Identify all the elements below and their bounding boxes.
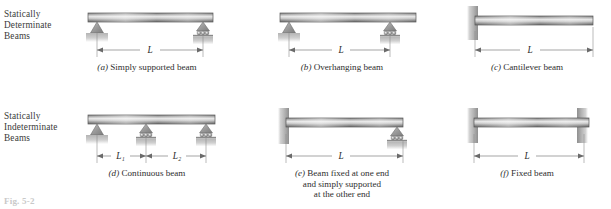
panel-b-overhanging-beam: L (b) Overhanging beam [262, 4, 422, 90]
row-label-indeterminate-line2: Indeterminate [4, 122, 58, 133]
dimension-d-L2: L₂ [146, 151, 206, 161]
caption-c-text: Cantilever beam [503, 62, 563, 72]
beam-f [474, 118, 589, 127]
caption-d-letter: (d) [109, 168, 120, 178]
panel-e-fixed-and-simply-supported-beam: L (e) Beam fixed at one end and simply s… [262, 106, 422, 206]
beam-e [286, 118, 403, 127]
panel-c-cantilever-beam: L (c) Cantilever beam [452, 4, 602, 90]
caption-d-text: Continuous beam [121, 168, 185, 178]
dimension-label-d-L1: L₁ [115, 151, 124, 161]
caption-b-text: Overhanging beam [314, 62, 383, 72]
caption-a-letter: (a) [97, 62, 108, 72]
panel-a-drawing: L [72, 4, 222, 90]
dimension-e-L: L [286, 151, 403, 161]
row-label-determinate-line2: Determinate [4, 20, 52, 31]
caption-b-letter: (b) [301, 62, 312, 72]
caption-e-line3: at the other end [262, 189, 422, 200]
caption-a: (a) Simply supported beam [72, 62, 222, 73]
panel-d-drawing: L₁ L₂ [72, 106, 222, 206]
caption-e-line1-wrap: (e) Beam fixed at one end [262, 168, 422, 179]
dimension-b-L: L [289, 45, 390, 55]
caption-a-text: Simply supported beam [110, 62, 196, 72]
beam-a [88, 13, 213, 22]
beam-c [475, 16, 593, 25]
row-label-determinate: Statically Determinate Beams [4, 9, 52, 43]
beam-d [88, 115, 215, 124]
caption-e-line2: and simply supported [262, 179, 422, 190]
row-label-indeterminate-line1: Statically [4, 111, 58, 122]
caption-c: (c) Cantilever beam [452, 62, 602, 73]
panel-f-drawing: L [452, 106, 602, 206]
beam-b [280, 13, 416, 22]
caption-f-text: Fixed beam [511, 168, 554, 178]
dimension-label-e-L: L [337, 151, 343, 161]
dimension-d-L1: L₁ [97, 151, 146, 161]
row-label-determinate-line3: Beams [4, 31, 52, 42]
figure-label: Fig. 5-2 [4, 196, 35, 206]
caption-c-letter: (c) [491, 62, 501, 72]
panel-c-drawing: L [452, 4, 602, 90]
panel-d-continuous-beam: L₁ L₂ (d) Continuous beam [72, 106, 222, 206]
dimension-label-d-L2: L₂ [172, 151, 182, 161]
caption-f: (f) Fixed beam [452, 168, 602, 179]
row-label-determinate-line1: Statically [4, 9, 52, 20]
dimension-f-L: L [474, 151, 584, 161]
beam-types-figure: Statically Determinate Beams Statically … [0, 0, 611, 209]
caption-e-letter: (e) [295, 168, 305, 178]
caption-f-letter: (f) [500, 168, 509, 178]
caption-d: (d) Continuous beam [72, 168, 222, 179]
dimension-c-L: L [475, 45, 593, 55]
dimension-a-L: L [97, 45, 203, 55]
caption-e-line1: Beam fixed at one end [307, 168, 389, 178]
dimension-label-c-L: L [526, 45, 532, 55]
caption-b: (b) Overhanging beam [262, 62, 422, 73]
panel-f-fixed-beam: L (f) Fixed beam [452, 106, 602, 206]
row-label-indeterminate: Statically Indeterminate Beams [4, 111, 58, 145]
caption-e: (e) Beam fixed at one end and simply sup… [262, 168, 422, 200]
dimension-label-f-L: L [523, 151, 529, 161]
support-roller-right-e [387, 127, 407, 149]
panel-b-drawing: L [262, 4, 422, 90]
dimension-label-a-L: L [146, 45, 152, 55]
panel-a-simply-supported-beam: L (a) Simply supported beam [72, 4, 222, 90]
dimension-label-b-L: L [337, 45, 343, 55]
row-label-indeterminate-line3: Beams [4, 133, 58, 144]
